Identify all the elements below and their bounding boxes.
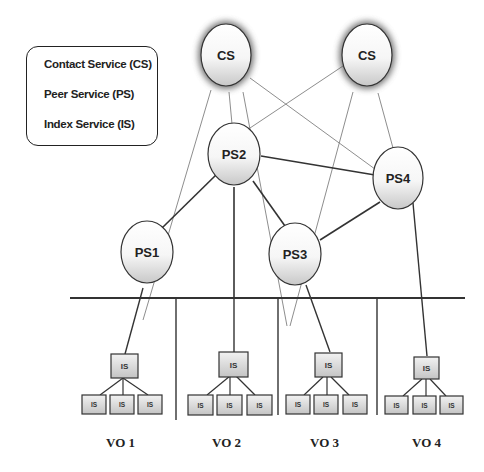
legend-item-index-service: Index Service (IS)	[44, 118, 134, 130]
ps-node-3-label: PS3	[283, 247, 308, 262]
vo4-index-tree: IS IS IS IS	[385, 357, 463, 414]
ps-to-is-links	[125, 203, 427, 356]
svg-text:IS: IS	[226, 402, 233, 409]
ps-node-2-label: PS2	[222, 147, 247, 162]
vo2-child-is-2[interactable]: IS	[217, 395, 242, 415]
vo4-child-is-3[interactable]: IS	[440, 396, 463, 414]
ps-node-2[interactable]: PS2	[208, 123, 260, 185]
ps-node-3[interactable]: PS3	[269, 223, 321, 285]
svg-text:IS: IS	[197, 402, 204, 409]
ps-node-1-label: PS1	[135, 245, 160, 260]
vo2-label: VO 2	[212, 435, 241, 451]
svg-text:IS: IS	[230, 361, 238, 370]
ps-node-4-label: PS4	[386, 171, 411, 186]
vo3-child-is-3[interactable]: IS	[343, 395, 367, 414]
vo2-child-is-3[interactable]: IS	[247, 395, 272, 415]
vo3-root-is[interactable]: IS	[315, 353, 342, 377]
vo1-root-is[interactable]: IS	[111, 354, 138, 378]
legend-box: Contact Service (CS) Peer Service (PS) I…	[26, 46, 158, 146]
vo1-child-is-2[interactable]: IS	[110, 395, 134, 414]
vo4-child-is-1[interactable]: IS	[385, 396, 408, 414]
vo1-index-tree: IS IS IS IS	[82, 354, 162, 414]
vo3-index-tree: IS IS IS IS	[286, 353, 367, 414]
cs-node-1[interactable]: CS	[198, 21, 254, 89]
svg-text:IS: IS	[295, 401, 302, 408]
cs-node-2[interactable]: CS	[339, 21, 395, 89]
vo1-child-is-1[interactable]: IS	[82, 395, 106, 414]
ps-connections	[162, 156, 380, 298]
vo4-child-is-2[interactable]: IS	[413, 396, 436, 414]
cs-node-1-label: CS	[217, 48, 235, 63]
vo3-label: VO 3	[310, 435, 339, 451]
svg-text:IS: IS	[147, 401, 154, 408]
svg-text:IS: IS	[448, 402, 455, 409]
vo2-root-is[interactable]: IS	[219, 352, 248, 377]
svg-text:IS: IS	[256, 402, 263, 409]
svg-text:IS: IS	[121, 362, 129, 371]
cs-connections	[143, 66, 393, 326]
cs-node-2-label: CS	[358, 48, 376, 63]
ps-node-4[interactable]: PS4	[373, 147, 423, 209]
svg-text:IS: IS	[323, 401, 330, 408]
svg-text:IS: IS	[352, 401, 359, 408]
vo4-root-is[interactable]: IS	[414, 357, 439, 379]
vo4-label: VO 4	[412, 435, 441, 451]
svg-text:IS: IS	[423, 364, 431, 373]
vo2-child-is-1[interactable]: IS	[188, 395, 213, 415]
vo2-index-tree: IS IS IS IS	[188, 352, 272, 415]
vo1-child-is-3[interactable]: IS	[138, 395, 162, 414]
legend-item-contact-service: Contact Service (CS)	[44, 58, 152, 70]
svg-text:IS: IS	[421, 402, 428, 409]
svg-text:IS: IS	[119, 401, 126, 408]
vo3-child-is-1[interactable]: IS	[286, 395, 310, 414]
ps-node-1[interactable]: PS1	[121, 221, 173, 283]
svg-text:IS: IS	[393, 402, 400, 409]
legend-item-peer-service: Peer Service (PS)	[44, 88, 134, 100]
vo1-label: VO 1	[106, 435, 135, 451]
svg-text:IS: IS	[91, 401, 98, 408]
vo3-child-is-2[interactable]: IS	[314, 395, 338, 414]
svg-text:IS: IS	[325, 361, 333, 370]
